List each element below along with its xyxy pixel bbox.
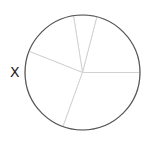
pie-label: X xyxy=(10,64,20,80)
pie-chart: X xyxy=(0,0,147,142)
